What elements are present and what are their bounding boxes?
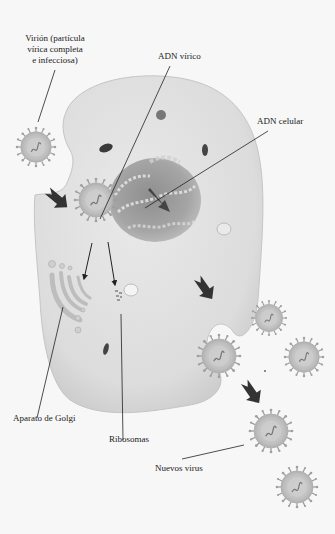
label-virion-line-1: Virión (partícula <box>20 33 90 44</box>
debris-dot <box>264 370 266 372</box>
label-new-viruses: Nuevos virus <box>155 463 203 474</box>
vacuole <box>124 284 138 296</box>
new-virus-2 <box>284 337 324 377</box>
new-virus-3 <box>249 409 294 454</box>
label-virion-line-3: e infecciosa) <box>20 55 90 66</box>
label-cell-dna: ADN celular <box>257 116 303 127</box>
new-virus-4 <box>276 466 319 509</box>
label-virion: Virión (partícula vírica completa e infe… <box>20 33 90 66</box>
nucleus <box>109 157 201 242</box>
virion-particle <box>16 127 56 167</box>
label-golgi: Aparato de Golgi <box>13 413 75 424</box>
mitochondrion <box>202 144 208 156</box>
vesicle-organelle <box>156 110 166 120</box>
label-virion-line-2: vírica completa <box>20 44 90 55</box>
leader-virion <box>38 70 55 122</box>
viral-capsid-at-nucleus <box>74 178 119 223</box>
virus-replication-diagram <box>0 0 335 534</box>
arrow-exit-2 <box>237 377 267 409</box>
label-ribosomes: Ribosomas <box>109 434 149 445</box>
budding-virus <box>197 334 242 379</box>
new-virus-1 <box>251 300 287 336</box>
label-viral-dna: ADN vírico <box>158 51 201 62</box>
leader-new-viruses <box>182 445 244 459</box>
lysosome <box>217 223 231 235</box>
